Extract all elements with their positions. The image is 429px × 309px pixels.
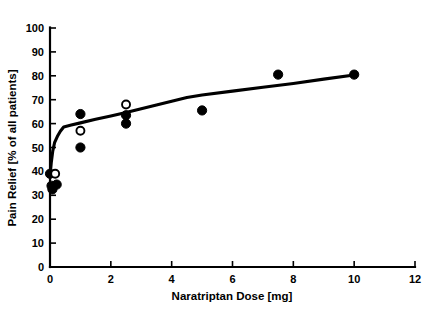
chart-figure: 0102030405060708090100 024681012 Naratri… <box>0 0 429 309</box>
x-axis-title: Naratriptan Dose [mg] <box>172 290 293 302</box>
data-points-open <box>51 100 130 177</box>
y-axis-title: Pain Relief [% of all patients] <box>6 69 18 226</box>
data-point-filled <box>76 109 85 118</box>
data-point-open <box>76 127 84 135</box>
data-points-filled <box>45 70 358 194</box>
data-point-filled <box>197 106 206 115</box>
y-tick-label: 50 <box>32 142 44 154</box>
data-point-filled <box>350 70 359 79</box>
fitted-dose-response-curve <box>50 75 354 176</box>
scatter-plot-canvas: 0102030405060708090100 024681012 Naratri… <box>0 0 429 309</box>
y-tick-label: 60 <box>32 118 44 130</box>
x-tick-label: 8 <box>290 273 296 285</box>
data-point-filled <box>76 143 85 152</box>
data-point-open <box>122 100 130 108</box>
x-tick-label: 0 <box>47 273 53 285</box>
data-point-open <box>51 170 59 178</box>
x-tick-label: 4 <box>169 273 176 285</box>
y-tick-label: 80 <box>32 70 44 82</box>
x-tick-label: 12 <box>409 273 421 285</box>
y-tick-label: 90 <box>32 46 44 58</box>
data-point-filled <box>274 70 283 79</box>
x-axis-tick-labels: 024681012 <box>47 273 421 285</box>
x-tick-label: 6 <box>229 273 235 285</box>
y-tick-label: 70 <box>32 94 44 106</box>
y-tick-label: 20 <box>32 213 44 225</box>
data-point-filled <box>121 119 130 128</box>
y-tick-label: 40 <box>32 165 44 177</box>
y-tick-label: 100 <box>26 22 44 34</box>
y-tick-label: 10 <box>32 237 44 249</box>
data-point-filled <box>52 180 61 189</box>
data-point-filled <box>121 111 130 120</box>
x-tick-label: 2 <box>108 273 114 285</box>
y-tick-label: 0 <box>38 261 44 273</box>
x-tick-label: 10 <box>348 273 360 285</box>
y-tick-label: 30 <box>32 189 44 201</box>
y-axis-tick-labels: 0102030405060708090100 <box>26 22 44 273</box>
